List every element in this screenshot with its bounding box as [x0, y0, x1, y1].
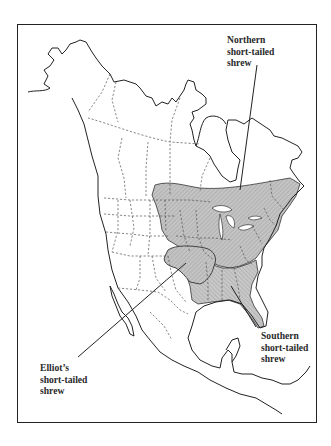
- northern-label-line3: shrew: [227, 57, 274, 69]
- southern-shrew-label: Southern short-tailed shrew: [261, 330, 308, 365]
- elliots-label-line3: shrew: [40, 385, 87, 397]
- northern-label-line1: Northern: [227, 34, 274, 46]
- elliots-shrew-range: [164, 246, 215, 284]
- elliots-label-line2: short-tailed: [40, 374, 87, 386]
- elliots-shrew-label: Elliot’s short-tailed shrew: [40, 362, 87, 397]
- elliots-label-line1: Elliot’s: [40, 362, 87, 374]
- southern-label-line2: short-tailed: [261, 342, 308, 354]
- elliots-leader-line: [78, 263, 186, 357]
- hudson-bay: [196, 116, 226, 146]
- southern-label-line1: Southern: [261, 330, 308, 342]
- southern-label-line3: shrew: [261, 353, 308, 365]
- northern-label-line2: short-tailed: [227, 46, 274, 58]
- northern-shrew-label: Northern short-tailed shrew: [227, 34, 274, 69]
- northern-leader-line: [240, 65, 257, 190]
